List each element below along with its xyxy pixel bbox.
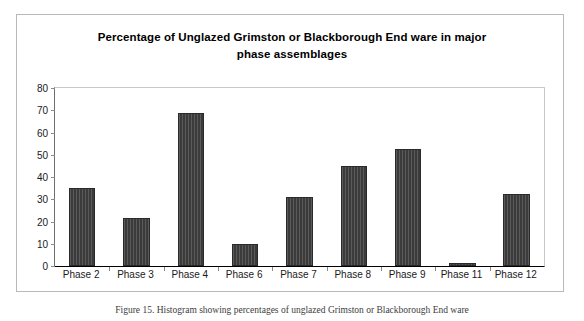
bar-slot [327, 88, 381, 266]
bar-slot [55, 88, 109, 266]
bar [449, 263, 476, 266]
bar [286, 197, 313, 266]
x-axis-label: Phase 3 [108, 269, 162, 280]
bar [503, 194, 530, 266]
y-tick-label-50: 50 [37, 149, 55, 160]
x-axis-label: Phase 9 [380, 269, 434, 280]
bar-slot [381, 88, 435, 266]
y-tick-label-10: 10 [37, 238, 55, 249]
chart-title-line-1: Percentage of Unglazed Grimston or Black… [57, 29, 527, 46]
x-axis-label: Phase 6 [217, 269, 271, 280]
y-tick-label-30: 30 [37, 194, 55, 205]
x-axis-label: Phase 11 [434, 269, 488, 280]
bar-slot [272, 88, 326, 266]
x-axis-label: Phase 12 [489, 269, 543, 280]
bar-slot [218, 88, 272, 266]
chart-frame: Percentage of Unglazed Grimston or Black… [16, 14, 564, 292]
figure-caption: Figure 15. Histogram showing percentages… [16, 305, 568, 315]
x-axis-label: Phase 7 [271, 269, 325, 280]
chart-title-line-2: phase assemblages [57, 46, 527, 63]
bar-slot [490, 88, 544, 266]
bar [178, 113, 205, 266]
bar-slot [435, 88, 489, 266]
bar [395, 149, 422, 266]
chart-title: Percentage of Unglazed Grimston or Black… [57, 29, 527, 63]
y-tick-label-80: 80 [37, 83, 55, 94]
x-axis-label: Phase 4 [163, 269, 217, 280]
bar [69, 188, 96, 266]
bar [123, 218, 150, 266]
plot-area: 80 70 60 50 40 30 20 10 0 [54, 87, 545, 267]
x-axis-label: Phase 2 [54, 269, 108, 280]
bar-series [55, 88, 544, 266]
y-tick-label-60: 60 [37, 127, 55, 138]
bar-slot [164, 88, 218, 266]
y-tick-label-40: 40 [37, 172, 55, 183]
bar [232, 244, 259, 266]
bar-slot [109, 88, 163, 266]
y-tick-label-70: 70 [37, 105, 55, 116]
bar [341, 166, 368, 266]
y-tick-label-20: 20 [37, 216, 55, 227]
x-axis-label: Phase 8 [326, 269, 380, 280]
x-axis-labels: Phase 2Phase 3Phase 4Phase 6Phase 7Phase… [54, 269, 543, 280]
